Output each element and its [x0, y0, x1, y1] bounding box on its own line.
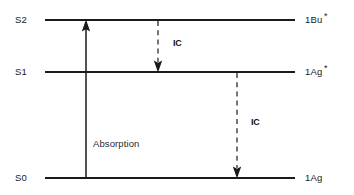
transition-label-absorption: Absorption [93, 138, 139, 149]
excited-state-asterisk-s2: * [324, 11, 328, 21]
level-label-left-s1: S1 [15, 66, 27, 77]
energy-level-diagram: S2 S1 S0 1Bu* 1Ag* 1Ag IC IC Absorption [0, 0, 354, 195]
level-term-symbol-s0: 1Ag [305, 172, 323, 183]
transition-label-ic-s2-s1: IC [173, 38, 181, 48]
ic-arrow-s2-s1 [154, 21, 162, 73]
level-label-right-s0: 1Ag [305, 172, 324, 183]
level-label-right-s1: 1Ag* [305, 66, 328, 77]
level-term-symbol-s1: 1Ag [305, 66, 323, 77]
level-label-left-s2: S2 [15, 14, 27, 25]
excited-state-asterisk-s1: * [324, 63, 328, 73]
level-term-symbol-s2: 1Bu [305, 14, 323, 25]
absorption-arrow [82, 20, 90, 179]
transition-label-ic-s1-s0: IC [251, 117, 259, 127]
diagram-canvas [0, 0, 354, 195]
level-label-left-s0: S0 [15, 172, 27, 183]
level-label-right-s2: 1Bu* [305, 14, 328, 25]
ic-arrow-s1-s0 [233, 73, 241, 179]
